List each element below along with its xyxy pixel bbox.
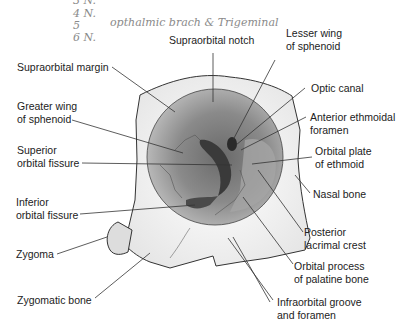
label-orbital-process-2: of palatine bone <box>294 273 369 286</box>
label-supraorbital-margin: Supraorbital margin <box>17 61 109 74</box>
label-supraorbital-notch: Supraorbital notch <box>169 34 254 47</box>
label-orbital-plate-2: of ethmoid <box>315 158 364 171</box>
label-zygomatic-bone: Zygomatic bone <box>17 294 92 307</box>
label-superior-fissure-1: Superior <box>17 144 57 157</box>
note-line3: 3 N. <box>73 0 96 7</box>
label-orbital-plate-1: Orbital plate <box>315 145 372 158</box>
label-posterior-lacrimal-2: lacrimal crest <box>304 239 366 252</box>
label-zygoma: Zygoma <box>16 248 54 261</box>
label-greater-wing-2: of sphenoid <box>17 113 71 126</box>
label-infraorbital-2: and foramen <box>277 309 336 322</box>
label-lesser-wing-1: Lesser wing <box>286 27 342 40</box>
label-posterior-lacrimal-1: Posterior <box>304 226 346 239</box>
label-optic-canal: Optic canal <box>311 82 364 95</box>
note-line6: 6 N. <box>73 31 96 44</box>
label-infraorbital-1: Infraorbital groove <box>277 296 362 309</box>
label-nasal-bone: Nasal bone <box>313 188 366 201</box>
label-superior-fissure-2: orbital fissure <box>17 157 79 170</box>
label-anterior-ethmoidal-1: Anterior ethmoidal <box>310 111 395 124</box>
note-line5-text: opthalmic brach & Trigeminal <box>110 16 279 29</box>
label-orbital-process-1: Orbital process <box>294 260 365 273</box>
label-lesser-wing-2: of sphenoid <box>286 40 340 53</box>
label-anterior-ethmoidal-2: foramen <box>310 124 349 137</box>
label-greater-wing-1: Greater wing <box>17 100 77 113</box>
label-inferior-fissure-1: Inferior <box>16 196 49 209</box>
label-inferior-fissure-2: orbital fissure <box>16 209 78 222</box>
optic-canal <box>227 137 237 151</box>
